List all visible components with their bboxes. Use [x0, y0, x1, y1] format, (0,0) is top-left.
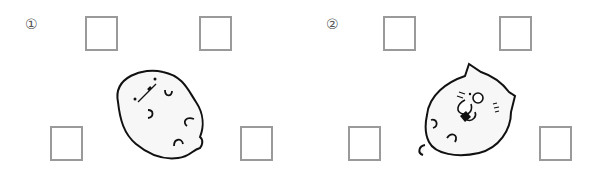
answer-box-bottom-right[interactable] [240, 126, 273, 161]
blob-character-icon [108, 62, 208, 162]
answer-box-top-right[interactable] [199, 16, 232, 51]
answer-box-bottom-left[interactable] [50, 126, 83, 161]
answer-box-top-left[interactable] [383, 16, 416, 51]
panel-number: ② [326, 17, 339, 31]
panel-number: ① [25, 17, 38, 31]
panel-2: ② [301, 0, 602, 170]
cat-character-icon [417, 60, 517, 160]
answer-box-bottom-right[interactable] [539, 126, 572, 161]
answer-box-bottom-left[interactable] [348, 126, 381, 161]
answer-box-top-right[interactable] [499, 16, 532, 51]
panel-1: ① [0, 0, 301, 170]
answer-box-top-left[interactable] [85, 16, 118, 51]
